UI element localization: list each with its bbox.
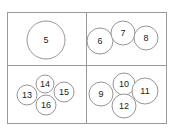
panel-top-left: 5 [27,21,65,59]
circle-label: 10 [119,79,129,89]
circle-node: 7 [111,21,135,45]
circle-label: 16 [41,100,51,110]
panel-bottom-left: 13141516 [17,75,74,115]
circle-label: 8 [143,33,148,43]
circle-label: 12 [119,101,129,111]
circle-node: 13 [17,85,37,105]
circle-label: 13 [22,90,32,100]
circle-grid-diagram: 5678131415169101112 [0,0,174,129]
circle-node: 15 [54,82,74,102]
circle-label: 11 [140,86,149,96]
circle-node: 9 [89,82,113,106]
circle-node: 16 [36,95,56,115]
circle-node: 12 [112,94,136,118]
circle-label: 7 [120,28,125,38]
circle-label: 14 [40,79,50,89]
circle-node: 11 [132,78,158,104]
circle-node: 6 [87,28,113,54]
circle-label: 15 [59,87,69,97]
circle-label: 9 [98,89,103,99]
circle-node: 14 [36,75,54,93]
circle-node: 8 [134,26,158,50]
panel-top-right: 678 [87,21,158,54]
circle-node: 5 [27,21,65,59]
circle-label: 6 [97,36,102,46]
panels: 5678131415169101112 [17,21,158,118]
circle-label: 5 [43,35,48,45]
panel-bottom-right: 9101112 [89,73,158,118]
